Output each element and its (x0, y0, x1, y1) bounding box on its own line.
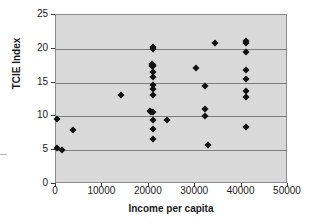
x-tick-label: 10000 (76, 186, 126, 196)
y-tick-mark (51, 115, 55, 116)
gridline-y (56, 150, 286, 151)
y-tick-label: 15 (18, 77, 48, 87)
y-tick-label: 10 (18, 110, 48, 120)
data-point (59, 147, 66, 154)
y-tick-mark (51, 82, 55, 83)
x-tick-label: 20000 (123, 186, 173, 196)
data-point (70, 126, 77, 133)
data-point (201, 112, 208, 119)
data-point (204, 141, 211, 148)
x-tick-label: 30000 (169, 186, 219, 196)
x-tick-label: 40000 (216, 186, 266, 196)
y-tick-label: 25 (18, 9, 48, 19)
data-point (243, 67, 250, 74)
scatter-chart-figure: TCIE Index Income per capita 05101520250… (0, 0, 317, 224)
x-axis-title: Income per capita (55, 203, 287, 214)
data-point (243, 75, 250, 82)
gridline-y (56, 49, 286, 50)
y-axis-title: TCIE Index (11, 4, 22, 124)
y-tick-mark (51, 14, 55, 15)
y-tick-label: 20 (18, 43, 48, 53)
data-point (243, 93, 250, 100)
data-point (117, 92, 124, 99)
data-point (149, 135, 156, 142)
data-point (149, 125, 156, 132)
data-point (243, 123, 250, 130)
data-point (192, 64, 199, 71)
x-tick-label: 50000 (262, 186, 312, 196)
gridline-y (56, 116, 286, 117)
y-tick-mark (51, 48, 55, 49)
x-tick-label: 0 (30, 186, 80, 196)
data-point (149, 92, 156, 99)
page-edge-artifact (0, 154, 7, 155)
data-point (149, 117, 156, 124)
plot-area (55, 14, 287, 183)
gridline-y (56, 83, 286, 84)
y-tick-label: 5 (18, 144, 48, 154)
y-tick-mark (51, 149, 55, 150)
data-point (149, 74, 156, 81)
data-point (212, 40, 219, 47)
